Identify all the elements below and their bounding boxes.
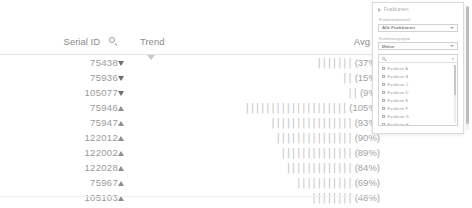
- cell-serial-id: 122012: [0, 130, 118, 145]
- column-header-serial-id[interactable]: Serial ID: [0, 36, 118, 55]
- table-row[interactable]: 75936|| (15%): [0, 70, 380, 85]
- filter-panel-title: Funktionen: [384, 7, 409, 12]
- list-item-label: Funktion G: [387, 114, 408, 119]
- list-item[interactable]: Funktion B: [379, 73, 457, 81]
- cell-trend: [118, 130, 230, 145]
- avg-bar-glyphs: ||: [342, 72, 352, 83]
- checkbox[interactable]: [382, 75, 385, 78]
- table-row[interactable]: 75438||||||| (37%): [0, 55, 380, 71]
- avg-bar-glyphs: |||||||: [316, 57, 352, 68]
- trend-up-icon: [118, 136, 124, 141]
- table-row[interactable]: 75946|||||||||||||||||||| (105%): [0, 100, 380, 115]
- search-icon[interactable]: [109, 37, 118, 46]
- cell-trend: [118, 190, 230, 205]
- cell-serial-id: 122028: [0, 160, 118, 175]
- cell-serial-id: 75438: [0, 55, 118, 71]
- avg-bar-glyphs: ||||||||||||||||: [270, 117, 352, 128]
- funktionsbereich-select[interactable]: Alle Funktionen: [378, 24, 458, 32]
- funktionsgruppe-select[interactable]: Meine: [378, 42, 458, 50]
- column-header-avg-label: Avg: [354, 36, 370, 47]
- cell-avg: || (15%): [230, 70, 380, 85]
- avg-percent-label: (84%): [352, 162, 380, 173]
- list-item-label: Funktion F: [387, 106, 408, 111]
- cell-avg: |||||||| (48%): [230, 190, 380, 205]
- checkbox[interactable]: [382, 99, 385, 102]
- list-item[interactable]: Funktion G: [379, 113, 457, 121]
- table-row[interactable]: 122002|||||||||||||| (89%): [0, 145, 380, 160]
- data-table-container: Serial ID Trend Avg 75438||||||| (37%)75…: [0, 36, 380, 205]
- trend-up-icon: [118, 181, 124, 186]
- list-item-label: Funktion H: [387, 122, 408, 126]
- table-header-row: Serial ID Trend Avg: [0, 36, 380, 55]
- table-body: 75438||||||| (37%)75936|| (15%)105077|| …: [0, 55, 380, 206]
- list-item[interactable]: Funktion D: [379, 89, 457, 97]
- function-list-items: Funktion AFunktion BFunktion CFunktion D…: [379, 63, 457, 126]
- table-row[interactable]: 122012||||||||||||||| (90%): [0, 130, 380, 145]
- list-item-label: Funktion B: [387, 74, 408, 79]
- table-row[interactable]: 105103|||||||| (48%): [0, 190, 380, 205]
- list-item[interactable]: Funktion C: [379, 81, 457, 89]
- avg-percent-label: (48%): [352, 192, 380, 203]
- cell-trend: [118, 70, 230, 85]
- list-item-label: Funktion C: [387, 82, 408, 87]
- avg-bar-glyphs: ||||||||||||||: [280, 147, 352, 158]
- avg-bar-glyphs: |||||||||||||||: [275, 132, 352, 143]
- function-list-scrollbar[interactable]: [454, 65, 457, 123]
- list-item[interactable]: Funktion A: [379, 65, 457, 73]
- funktionsbereich-select-value: Alle Funktionen: [382, 25, 415, 30]
- trend-down-icon: [118, 91, 124, 96]
- trend-up-icon: [118, 166, 124, 171]
- checkbox[interactable]: [382, 107, 385, 110]
- cell-avg: ||||||||||||||| (90%): [230, 130, 380, 145]
- column-header-trend[interactable]: Trend: [118, 36, 230, 55]
- scrollbar-thumb[interactable]: [454, 65, 457, 95]
- cell-serial-id: 105077: [0, 85, 118, 100]
- checkbox[interactable]: [382, 123, 385, 126]
- checkbox[interactable]: [382, 67, 385, 70]
- cell-serial-id: 75947: [0, 115, 118, 130]
- cell-serial-id: 105103: [0, 190, 118, 205]
- list-item[interactable]: Funktion H: [379, 121, 457, 127]
- checkbox[interactable]: [382, 91, 385, 94]
- function-list-search[interactable]: [379, 55, 457, 63]
- list-item[interactable]: Funktion F: [379, 105, 457, 113]
- table-bottom-divider: [0, 196, 372, 197]
- filter-panel-header[interactable]: Funktionen: [378, 7, 458, 12]
- column-header-avg[interactable]: Avg: [230, 36, 380, 55]
- cell-trend: [118, 100, 230, 115]
- serial-trend-avg-table: Serial ID Trend Avg 75438||||||| (37%)75…: [0, 36, 380, 205]
- table-row[interactable]: 75947|||||||||||||||| (93%): [0, 115, 380, 130]
- trend-down-icon: [118, 61, 124, 66]
- list-item-label: Funktion A: [387, 66, 408, 71]
- filter-field-funktionsbereich: Funktionsbereich Alle Funktionen: [378, 17, 458, 32]
- checkbox[interactable]: [382, 83, 385, 86]
- cell-avg: ||||||||||| (69%): [230, 175, 380, 190]
- page-scrollbar[interactable]: [466, 6, 469, 130]
- trend-up-icon: [118, 106, 124, 111]
- cell-serial-id: 75967: [0, 175, 118, 190]
- trend-filter-caret-icon[interactable]: [147, 55, 155, 60]
- chevron-right-icon[interactable]: [378, 8, 381, 12]
- cell-trend: [118, 160, 230, 175]
- cell-serial-id: 122002: [0, 145, 118, 160]
- column-header-serial-id-label: Serial ID: [64, 36, 100, 47]
- cell-trend: [118, 85, 230, 100]
- table-header: Serial ID Trend Avg: [0, 36, 380, 55]
- table-row[interactable]: 75967||||||||||| (69%): [0, 175, 380, 190]
- avg-bar-glyphs: |||||||||||: [296, 177, 352, 188]
- table-row[interactable]: 105077|| (9%): [0, 85, 380, 100]
- cell-trend: [118, 115, 230, 130]
- funktionsgruppe-select-value: Meine: [382, 44, 394, 49]
- cell-trend: [118, 55, 230, 71]
- table-row[interactable]: 122028||||||||||||| (84%): [0, 160, 380, 175]
- search-icon: [382, 57, 386, 61]
- list-item[interactable]: Funktion E: [379, 97, 457, 105]
- filter-panel: Funktionen Funktionsbereich Alle Funktio…: [372, 2, 464, 134]
- chevron-down-icon: [450, 45, 454, 47]
- checkbox[interactable]: [382, 115, 385, 118]
- scrollbar-thumb[interactable]: [466, 6, 469, 124]
- chevron-down-icon[interactable]: [452, 58, 454, 60]
- avg-bar-glyphs: ||: [347, 87, 357, 98]
- cell-avg: |||||||||||||| (89%): [230, 145, 380, 160]
- list-item-label: Funktion D: [387, 90, 408, 95]
